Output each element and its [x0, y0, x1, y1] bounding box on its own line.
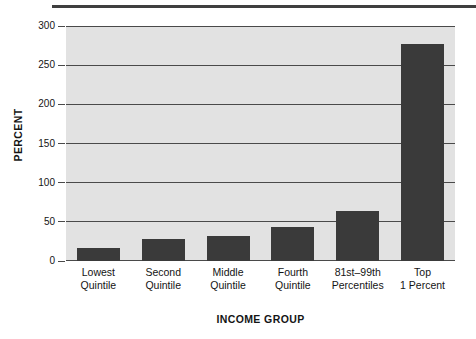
category-label-line: Percentiles	[325, 279, 390, 292]
bar-chart-figure: PERCENT LowestQuintileSecondQuintileMidd…	[0, 0, 476, 339]
gridline	[66, 182, 455, 183]
category-label-line: Fourth	[261, 266, 326, 279]
category-label-line: Quintile	[261, 279, 326, 292]
y-axis-tick-label: 0	[21, 256, 55, 266]
gridline	[66, 104, 455, 105]
bar[interactable]	[77, 248, 120, 261]
x-axis-category-label: Top1 Percent	[390, 266, 455, 292]
header-rule	[52, 5, 476, 8]
category-label-line: Second	[131, 266, 196, 279]
plot-area	[66, 26, 455, 261]
category-label-line: Quintile	[196, 279, 261, 292]
bar[interactable]	[271, 227, 314, 261]
y-axis-tick-label: 50	[21, 217, 55, 227]
gridline	[66, 65, 455, 66]
category-label-line: Middle	[196, 266, 261, 279]
category-label-line: 81st–99th	[325, 266, 390, 279]
x-axis-category-label: MiddleQuintile	[196, 266, 261, 292]
y-axis-tick-mark	[58, 104, 65, 105]
x-axis-category-label: SecondQuintile	[131, 266, 196, 292]
y-axis-tick-label: 100	[21, 178, 55, 188]
bar[interactable]	[336, 211, 379, 261]
category-label-line: Quintile	[131, 279, 196, 292]
y-axis-tick-mark	[58, 182, 65, 183]
bar[interactable]	[401, 44, 444, 261]
bar[interactable]	[207, 236, 250, 261]
category-label-line: Lowest	[66, 266, 131, 279]
y-axis-tick-mark	[58, 65, 65, 66]
y-axis-tick-mark	[58, 26, 65, 27]
x-axis-category-label: LowestQuintile	[66, 266, 131, 292]
category-label-line: 1 Percent	[390, 279, 455, 292]
x-axis-baseline	[66, 260, 455, 261]
plot-inner	[66, 26, 455, 261]
x-axis-category-labels: LowestQuintileSecondQuintileMiddleQuinti…	[66, 266, 455, 300]
category-label-line: Top	[390, 266, 455, 279]
y-axis-tick-mark	[58, 261, 65, 262]
y-axis-tick-label: 250	[21, 60, 55, 70]
gridline	[66, 26, 455, 27]
y-axis-tick-label: 150	[21, 139, 55, 149]
gridline	[66, 221, 455, 222]
bar[interactable]	[142, 239, 185, 261]
y-axis-tick-mark	[58, 221, 65, 222]
y-axis-title: PERCENT	[12, 105, 26, 165]
category-label-line: Quintile	[66, 279, 131, 292]
x-axis-title: INCOME GROUP	[66, 313, 455, 325]
y-axis-tick-label: 200	[21, 99, 55, 109]
gridline	[66, 143, 455, 144]
x-axis-category-label: FourthQuintile	[261, 266, 326, 292]
y-axis-tick-label: 300	[21, 21, 55, 31]
x-axis-category-label: 81st–99thPercentiles	[325, 266, 390, 292]
y-axis-tick-mark	[58, 143, 65, 144]
